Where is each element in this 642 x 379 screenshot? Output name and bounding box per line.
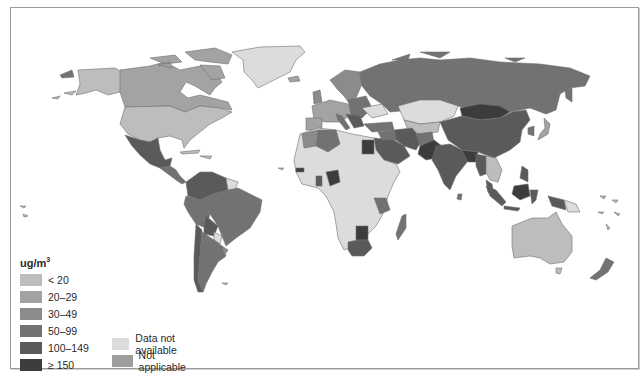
region-philippines[interactable] — [520, 166, 528, 182]
region-alaska-islands — [52, 91, 76, 99]
region-kamchatka[interactable] — [565, 88, 572, 102]
legend-item-50-99: 50–99 — [20, 323, 89, 340]
legend-label: 50–99 — [48, 325, 77, 337]
region-indochina[interactable] — [486, 156, 502, 182]
region-borneo[interactable] — [512, 184, 530, 200]
legend-swatch-ge150 — [20, 359, 42, 371]
region-alaska[interactable] — [76, 68, 122, 95]
legend-item-lt20: < 20 — [20, 272, 89, 289]
legend-label: 30–49 — [48, 308, 77, 320]
region-tasmania — [556, 268, 562, 274]
region-papua-new-guinea[interactable] — [564, 200, 580, 212]
region-south-africa[interactable] — [348, 240, 372, 256]
legend-swatch-100-149 — [20, 342, 42, 354]
region-sumatra[interactable] — [486, 186, 506, 206]
region-new-zealand[interactable] — [590, 258, 614, 280]
legend-swatch-not-available — [112, 338, 129, 350]
region-australia[interactable] — [512, 212, 572, 264]
region-japan[interactable] — [538, 118, 550, 140]
legend-unit-sup: 3 — [46, 256, 50, 263]
legend-extra-column: Data not available Not applicable — [112, 335, 191, 369]
legend-label: < 20 — [48, 274, 69, 286]
region-senegal[interactable] — [296, 168, 304, 172]
legend-item-30-49: 30–49 — [20, 306, 89, 323]
legend-swatch-20-29 — [20, 291, 42, 303]
region-egypt[interactable] — [362, 140, 374, 154]
legend-item-100-149: 100–149 — [20, 340, 89, 357]
legend-label: Not applicable — [139, 349, 192, 373]
region-sri-lanka[interactable] — [457, 194, 462, 200]
map-legend: ug/m3 < 20 20–29 30–49 50–99 100–149 ≥ 1… — [20, 256, 89, 374]
world-choropleth-map — [0, 0, 642, 379]
region-uk[interactable] — [313, 90, 322, 104]
legend-swatch-lt20 — [20, 274, 42, 286]
region-central-america[interactable] — [160, 166, 186, 184]
legend-item-not-applicable: Not applicable — [112, 352, 191, 369]
region-pacific-islands — [598, 196, 620, 230]
region-sulawesi — [530, 190, 538, 204]
legend-unit: ug/m3 — [20, 256, 89, 269]
region-russia-east-tip — [60, 70, 74, 78]
legend-swatch-50-99 — [20, 325, 42, 337]
legend-item-ge150: ≥ 150 — [20, 357, 89, 374]
region-madagascar[interactable] — [396, 214, 406, 240]
legend-swatch-not-applicable — [112, 355, 133, 367]
region-caribbean — [180, 150, 212, 159]
legend-label: 20–29 — [48, 291, 77, 303]
region-myanmar[interactable] — [476, 154, 486, 176]
legend-unit-text: ug/m — [20, 257, 46, 269]
legend-swatch-30-49 — [20, 308, 42, 320]
region-java — [504, 206, 520, 211]
legend-item-20-29: 20–29 — [20, 289, 89, 306]
region-new-guinea-west — [548, 196, 566, 210]
region-korea[interactable] — [528, 126, 534, 136]
region-iceland[interactable] — [288, 76, 300, 82]
legend-label: 100–149 — [48, 342, 89, 354]
legend-label: ≥ 150 — [48, 359, 74, 371]
region-botswana[interactable] — [356, 226, 368, 240]
region-ghana[interactable] — [316, 176, 322, 186]
